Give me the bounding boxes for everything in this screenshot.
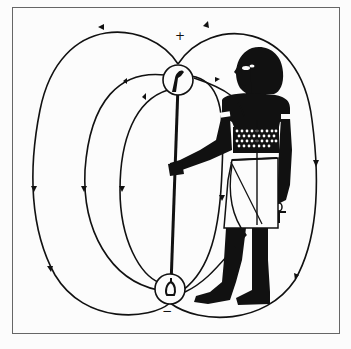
field-line-left-middle xyxy=(85,74,165,290)
staff xyxy=(171,86,178,285)
arrow-icon xyxy=(203,21,209,28)
field-line-left-inner xyxy=(120,90,168,283)
arrow-icon xyxy=(98,24,104,30)
arrow-icon xyxy=(313,160,319,167)
field-line-right-inner xyxy=(183,76,223,290)
positive-sign: + xyxy=(175,30,185,42)
figure-torso xyxy=(222,93,290,132)
net-dress xyxy=(233,127,279,153)
arrow-icon xyxy=(81,186,87,192)
bottom-pole-node xyxy=(155,274,185,304)
negative-sign: − xyxy=(162,305,172,317)
arrow-icon xyxy=(142,93,146,100)
arrow-icon xyxy=(31,186,37,192)
top-pole-node xyxy=(163,65,193,95)
arrow-icon xyxy=(215,77,220,82)
figure-hand xyxy=(168,162,184,176)
field-lines-diagram xyxy=(0,0,351,349)
figure-leg-back xyxy=(194,228,246,304)
